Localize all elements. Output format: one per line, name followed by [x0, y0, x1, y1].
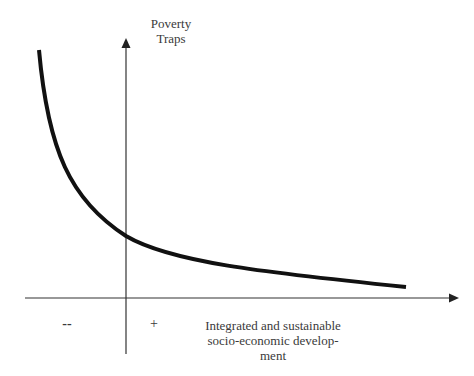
x-axis-label-line3: ment: [188, 348, 358, 363]
y-axis-label: Poverty Traps: [136, 16, 206, 46]
x-axis-arrow-icon: [449, 294, 459, 303]
y-axis-label-line2: Traps: [136, 31, 206, 46]
y-axis-arrow-icon: [122, 38, 131, 48]
y-axis-label-line1: Poverty: [136, 16, 206, 31]
x-axis-label-line1: Integrated and sustainable: [188, 318, 358, 333]
x-axis-label-line2: socio-economic develop-: [188, 333, 358, 348]
x-axis-label: Integrated and sustainable socio-economi…: [188, 318, 358, 363]
positive-side-marker: +: [142, 316, 166, 331]
poverty-trap-curve: [39, 50, 406, 287]
negative-side-marker: --: [52, 316, 82, 331]
